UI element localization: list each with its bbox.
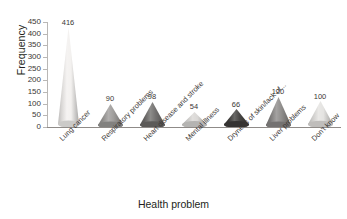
- x-axis-category-label: Don't know: [310, 112, 341, 143]
- x-axis-title: Health problem: [0, 198, 347, 210]
- cone-chart: Frequency 050100150200250300350400450 41…: [0, 0, 347, 219]
- x-axis-category-label: Liver problems: [268, 103, 307, 142]
- x-axis-category-label: Lung cancer: [58, 109, 92, 143]
- x-axis-category-label: Mental illness: [184, 106, 221, 143]
- x-axis-category-labels: Lung cancerRespiratory problemsHeart dis…: [0, 0, 347, 219]
